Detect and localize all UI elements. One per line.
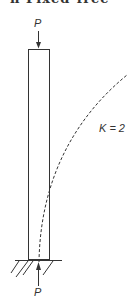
buckling-diagram: n Fixed-free P P K = 2 [0,0,134,302]
column [29,50,50,260]
bottom-load-label: P [34,286,41,298]
fixed-support-hatch-icon [11,261,53,277]
column-drawing [0,0,134,302]
clipped-title: n Fixed-free [10,0,134,6]
top-load-arrow-icon [36,31,41,49]
bottom-reaction-arrow-icon [36,262,41,286]
effective-length-factor-label: K = 2 [99,122,125,134]
deflected-shape-curve [39,75,127,262]
top-load-label: P [34,17,41,29]
